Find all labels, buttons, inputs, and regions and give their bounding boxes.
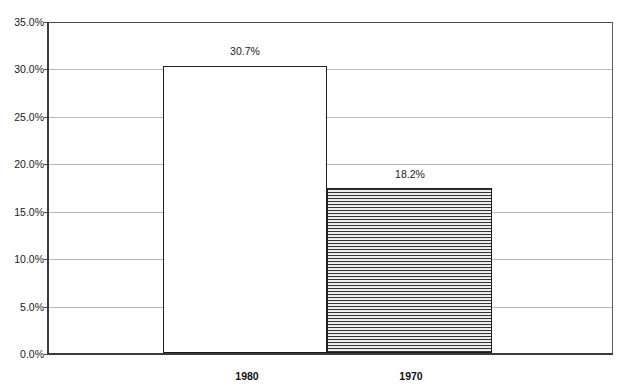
gridline-30 bbox=[47, 69, 613, 70]
y-axis-tick-label-30: 30.0% bbox=[14, 64, 44, 75]
y-axis-tick-label-5: 5.0% bbox=[20, 302, 44, 313]
x-axis-line bbox=[47, 353, 613, 355]
x-axis-category-label-1980: 1980 bbox=[200, 370, 294, 382]
gridline-20 bbox=[47, 164, 613, 165]
y-axis: 35.0% 30.0% 25.0% 20.0% 15.0% 10.0% 5.0%… bbox=[0, 0, 44, 391]
bar-1980[interactable] bbox=[163, 66, 327, 353]
plot-area bbox=[47, 22, 613, 355]
plot-frame-top bbox=[47, 22, 613, 23]
y-axis-tick-label-10: 10.0% bbox=[14, 254, 44, 265]
bar-value-label-1970: 18.2% bbox=[363, 168, 457, 180]
y-axis-tick-label-0: 0.0% bbox=[20, 349, 44, 360]
y-axis-line bbox=[47, 22, 49, 355]
y-axis-tick-label-35: 35.0% bbox=[14, 17, 44, 28]
y-axis-tick-label-20: 20.0% bbox=[14, 159, 44, 170]
bar-1970[interactable] bbox=[327, 188, 492, 353]
x-axis-category-label-1970: 1970 bbox=[364, 370, 458, 382]
y-axis-tick-label-25: 25.0% bbox=[14, 112, 44, 123]
bar-value-label-1980: 30.7% bbox=[198, 45, 292, 57]
gridline-25 bbox=[47, 117, 613, 118]
y-axis-tick-label-15: 15.0% bbox=[14, 207, 44, 218]
plot-frame-right bbox=[612, 22, 613, 355]
bar-chart: 35.0% 30.0% 25.0% 20.0% 15.0% 10.0% 5.0%… bbox=[0, 0, 623, 391]
